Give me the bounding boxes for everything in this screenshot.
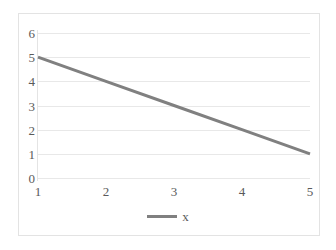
y-axis-tick-label: 3 xyxy=(19,99,35,112)
legend-item[interactable]: x xyxy=(147,210,189,223)
x-axis-tick-labels: 12345 xyxy=(38,185,310,201)
y-axis-tick-label: 4 xyxy=(19,75,35,88)
series-group xyxy=(38,57,310,154)
y-axis-tick-label: 1 xyxy=(19,147,35,160)
chart-legend: x xyxy=(0,210,336,223)
series-layer xyxy=(38,33,310,178)
x-axis-tick-label: 3 xyxy=(171,185,178,198)
y-axis-tick-label: 0 xyxy=(19,172,35,185)
x-axis-tick-label: 2 xyxy=(103,185,110,198)
y-axis-tick-labels: 0123456 xyxy=(18,33,35,178)
x-axis-tick-label: 5 xyxy=(307,185,314,198)
line-chart: 0123456 12345 x xyxy=(0,0,336,250)
legend-label: x xyxy=(182,210,189,223)
legend-line-icon xyxy=(147,215,177,218)
y-axis-tick-label: 6 xyxy=(19,27,35,40)
x-axis-tick-label: 4 xyxy=(239,185,246,198)
x-axis-tick-label: 1 xyxy=(35,185,42,198)
y-axis-tick-label: 2 xyxy=(19,123,35,136)
series-line xyxy=(38,57,310,154)
plot-area xyxy=(38,33,310,178)
gridline xyxy=(38,178,310,179)
y-axis-tick-label: 5 xyxy=(19,51,35,64)
